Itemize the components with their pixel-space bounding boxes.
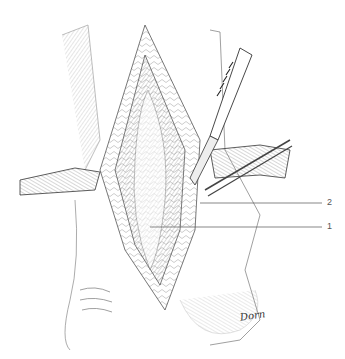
incision (100, 25, 200, 310)
annotation-label-2: 2 (327, 197, 332, 207)
right-retractor (205, 140, 292, 196)
annotation-label-1: 1 (327, 221, 332, 231)
surgical-illustration (0, 0, 345, 359)
left-retractor (20, 168, 100, 195)
